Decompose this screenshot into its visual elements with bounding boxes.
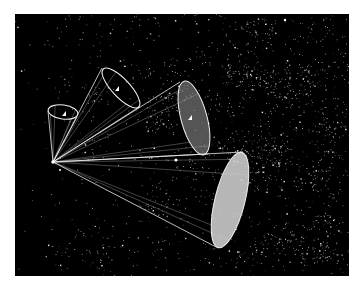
light-cone-diagram <box>0 0 362 290</box>
observer-apex-point <box>51 160 55 164</box>
bright-galaxy <box>174 158 177 161</box>
bright-galaxy <box>59 169 61 171</box>
bright-galaxy <box>284 19 286 21</box>
